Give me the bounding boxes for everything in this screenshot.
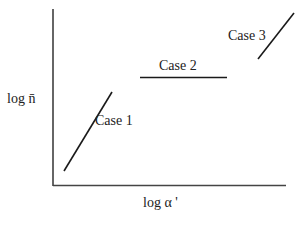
y-axis-label: log n̄ — [7, 92, 35, 106]
case-1-label: Case 1 — [95, 114, 133, 128]
x-axis-label: log α ' — [143, 196, 178, 210]
case-2-label: Case 2 — [159, 59, 197, 73]
case-3-label: Case 3 — [228, 29, 266, 43]
case-1-line — [64, 92, 112, 171]
